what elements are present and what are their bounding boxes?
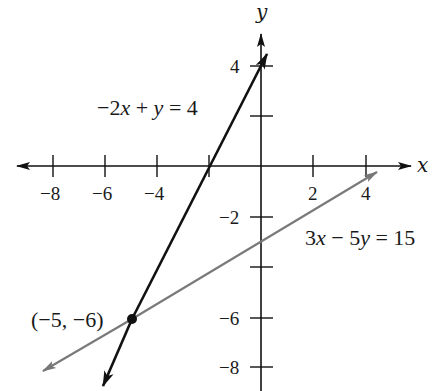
equation-label-2: 3x − 5y = 15 bbox=[305, 225, 415, 250]
intersection-point bbox=[127, 314, 137, 324]
svg-text:−6: −6 bbox=[219, 308, 239, 329]
x-tick-labels: −8 −6 −4 2 4 bbox=[40, 183, 371, 204]
coordinate-plane: x y −8 −6 −4 2 4 4 −2 −6 −8 bbox=[0, 0, 444, 391]
y-tick-labels: 4 −2 −6 −8 bbox=[219, 56, 240, 378]
equation-label-1: −2x + y = 4 bbox=[97, 95, 198, 120]
svg-text:−2: −2 bbox=[219, 207, 239, 228]
svg-text:−8: −8 bbox=[40, 183, 60, 204]
y-axis-label: y bbox=[255, 0, 268, 24]
intersection-label: (−5, −6) bbox=[31, 307, 103, 332]
svg-text:4: 4 bbox=[361, 183, 371, 204]
x-axis-label: x bbox=[417, 153, 428, 177]
svg-text:4: 4 bbox=[230, 56, 240, 77]
svg-text:−8: −8 bbox=[219, 357, 239, 378]
svg-text:2: 2 bbox=[308, 183, 318, 204]
svg-text:−6: −6 bbox=[92, 183, 112, 204]
svg-text:−4: −4 bbox=[144, 183, 165, 204]
